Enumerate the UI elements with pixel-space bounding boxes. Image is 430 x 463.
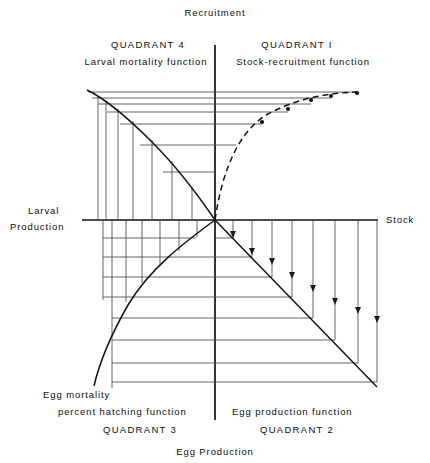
axis-label-recruitment: Recruitment xyxy=(184,8,245,18)
quadrant-3-grid xyxy=(103,238,196,382)
quadrant-2-function-label: Egg production function xyxy=(232,407,353,417)
quadrant-4-verticals xyxy=(98,96,192,220)
quadrant-4-function-label: Larval mortality function xyxy=(85,57,208,67)
quadrant-2-droplines xyxy=(233,220,377,382)
quadrant-1-horizontals xyxy=(215,92,357,145)
quadrant-3-function-label-line1: Egg mortality xyxy=(43,390,110,400)
quadrant-1-title: QUADRANT I xyxy=(261,40,332,50)
axis-label-larval-production-line2: Production xyxy=(10,222,64,232)
quadrant-2-grid xyxy=(196,238,377,382)
quadrant-3-function-label-line2: percent hatching function xyxy=(58,407,187,417)
egg-production-function-curve xyxy=(215,220,377,387)
quadrant-4-title: QUADRANT 4 xyxy=(111,40,185,50)
four-quadrant-diagram: Recruitment QUADRANT 4 Larval mortality … xyxy=(0,0,430,463)
stock-recruitment-data-points xyxy=(260,91,359,124)
axis-label-stock: Stock xyxy=(386,215,414,225)
axis-label-larval-production-line1: Larval xyxy=(28,206,59,216)
quadrant-4-horizontals xyxy=(88,92,215,172)
axis-label-egg-production: Egg Production xyxy=(176,447,254,457)
quadrant-1-function-label: Stock-recruitment function xyxy=(236,57,370,67)
quadrant-2-title: QUADRANT 2 xyxy=(260,425,334,435)
quadrant-3-title: QUADRANT 3 xyxy=(103,425,177,435)
stock-recruitment-function-curve xyxy=(215,92,357,220)
